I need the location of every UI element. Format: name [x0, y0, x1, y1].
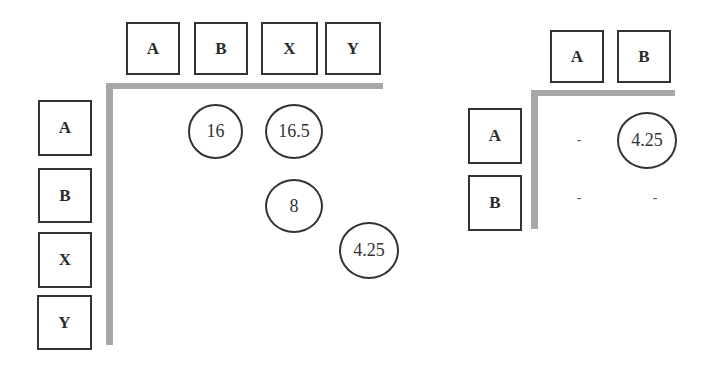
left-col-header-y: Y [325, 22, 381, 75]
left-col-header-x: X [261, 22, 318, 75]
left-row-header-b: B [38, 168, 92, 223]
left-col-header-a: A [126, 22, 180, 75]
right-col-header-a: A [550, 30, 604, 83]
right-horizontal-axis-bar [531, 90, 675, 96]
left-horizontal-axis-bar [106, 83, 383, 89]
left-cell-a-b: 16 [188, 104, 243, 159]
right-cell-a-b: 4.25 [617, 112, 677, 169]
left-cell-b-x: 8 [265, 179, 323, 233]
left-cell-x-y: 4.25 [339, 222, 399, 279]
right-vertical-axis-bar [531, 90, 538, 229]
right-col-header-b: B [617, 30, 671, 83]
left-col-header-b: B [194, 22, 248, 75]
right-cell-b-a: - [577, 190, 582, 206]
left-vertical-axis-bar [106, 83, 113, 345]
right-row-header-b: B [468, 175, 522, 231]
right-row-header-a: A [468, 108, 522, 164]
right-cell-a-a: - [577, 132, 582, 148]
left-row-header-y: Y [37, 295, 92, 350]
left-row-header-x: X [38, 232, 92, 288]
left-row-header-a: A [38, 100, 92, 156]
left-cell-a-x: 16.5 [265, 104, 323, 159]
right-cell-b-b: - [653, 190, 658, 206]
